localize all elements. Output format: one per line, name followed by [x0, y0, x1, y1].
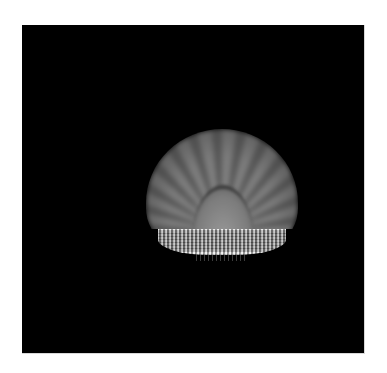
band-foot-ornament [196, 253, 248, 261]
shell-object [146, 129, 298, 261]
photo-frame [22, 25, 365, 354]
inscription-band [158, 229, 286, 255]
